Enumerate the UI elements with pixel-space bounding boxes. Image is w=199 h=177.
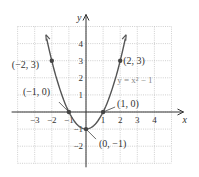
equation-label: y = x² − 1 bbox=[117, 75, 152, 85]
x-tick-label: −2 bbox=[47, 115, 57, 125]
point-label: (1, 0) bbox=[117, 98, 139, 110]
y-tick-label: 2 bbox=[79, 73, 84, 83]
y-tick-label: 4 bbox=[79, 39, 84, 49]
x-tick-label: −3 bbox=[30, 115, 40, 125]
labeled-points: (−2, 3)(2, 3)(−1, 0)(1, 0)(0, −1) bbox=[12, 55, 145, 150]
leader-line bbox=[59, 102, 69, 112]
leader-line bbox=[86, 129, 96, 139]
curve-arrow-right-icon bbox=[122, 35, 126, 41]
y-tick-label: 3 bbox=[79, 56, 84, 66]
parabola-chart: −3−2−112344321−1−2 (−2, 3)(2, 3)(−1, 0)(… bbox=[0, 0, 199, 177]
x-tick-label: 3 bbox=[135, 115, 140, 125]
data-point bbox=[118, 59, 122, 63]
point-label: (0, −1) bbox=[99, 138, 126, 150]
x-tick-label: 4 bbox=[152, 115, 157, 125]
y-tick-label: −2 bbox=[73, 141, 83, 151]
x-tick-label: 1 bbox=[101, 115, 106, 125]
curve-arrow-left-icon bbox=[46, 35, 50, 41]
x-tick-label: 2 bbox=[118, 115, 123, 125]
y-tick-label: 1 bbox=[79, 90, 84, 100]
data-point bbox=[50, 59, 54, 63]
point-label: (−2, 3) bbox=[12, 59, 39, 71]
point-label: (2, 3) bbox=[123, 55, 145, 67]
x-tick-label: −1 bbox=[64, 115, 74, 125]
x-axis-label: x bbox=[182, 114, 188, 125]
point-label: (−1, 0) bbox=[23, 86, 50, 98]
y-axis-label: y bbox=[76, 12, 82, 23]
